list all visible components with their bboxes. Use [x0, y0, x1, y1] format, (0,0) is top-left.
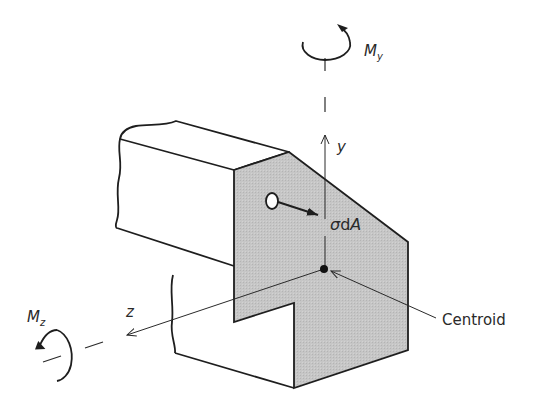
z-axis-dash — [85, 342, 103, 348]
centroid-label: Centroid — [442, 311, 506, 329]
moment-my-label: My — [364, 42, 384, 62]
beam-bending-diagram: My Mz y z σdA Centroid — [0, 0, 549, 413]
moment-my-arrow-icon — [303, 24, 351, 60]
stress-label: σdA — [330, 215, 361, 234]
moment-mz-arrow-icon — [33, 330, 72, 381]
moment-mz-label: Mz — [27, 308, 46, 328]
centroid-point — [320, 265, 328, 273]
y-axis-label: y — [336, 138, 347, 156]
z-axis-label: z — [125, 303, 135, 321]
z-axis-dash — [43, 356, 61, 362]
area-element-dA — [266, 193, 278, 209]
